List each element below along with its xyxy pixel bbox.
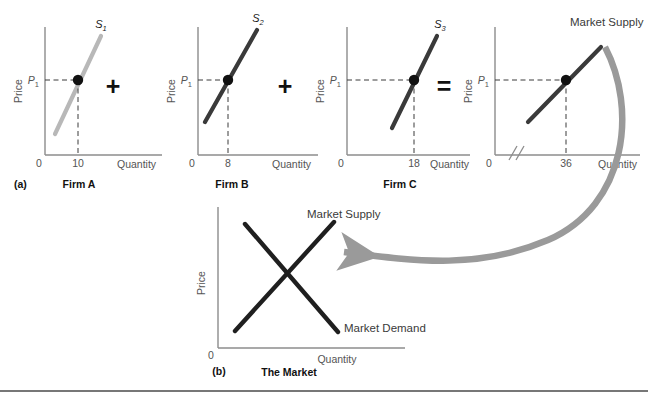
- market-supply-axis-break-icon: [509, 146, 524, 160]
- firm-c-price-tick: P1: [330, 74, 341, 89]
- firm-b-origin-label: 0: [189, 157, 195, 169]
- panel-letter-b: (b): [212, 365, 225, 377]
- firm-c-x-axis-label: Quantity: [430, 158, 470, 170]
- operator-plus-2: +: [278, 72, 293, 100]
- firm-c-caption: Firm C: [383, 178, 417, 190]
- firm-b-x-axis-label: Quantity: [272, 158, 312, 170]
- panel-the-market: Market Supply Market Demand Price Quanti…: [195, 207, 426, 378]
- firm-b-quantity-tick: 8: [225, 157, 231, 169]
- firm-b-curve-label: S2: [252, 12, 264, 27]
- firm-b-price-tick: P1: [181, 74, 192, 89]
- market-supply-y-axis-label: Price: [462, 79, 474, 103]
- market-supply-equilibrium-point: [561, 75, 571, 85]
- firm-a-caption: Firm A: [63, 178, 96, 190]
- panel-letter-a: (a): [14, 178, 27, 190]
- panel-market-supply: Market Supply Price Quantity P1 0 36: [462, 16, 644, 170]
- market-supply-origin-label: 0: [486, 157, 492, 169]
- operator-plus-1: +: [106, 72, 121, 100]
- firm-a-x-axis-label: Quantity: [117, 158, 157, 170]
- firm-b-caption: Firm B: [215, 178, 249, 190]
- firm-c-equilibrium-point: [409, 75, 419, 85]
- firm-c-y-axis-label: Price: [314, 79, 326, 103]
- firm-b-equilibrium-point: [223, 75, 233, 85]
- firm-a-origin-label: 0: [36, 157, 42, 169]
- the-market-x-axis-label: Quantity: [317, 353, 357, 365]
- panel-firm-a: S1 Price Quantity P1 0 10 (a) Firm A: [12, 18, 162, 190]
- market-supply-figure: S1 Price Quantity P1 0 10 (a) Firm A + S…: [0, 0, 648, 401]
- firm-b-y-axis-label: Price: [165, 79, 177, 103]
- the-market-supply-curve: [235, 222, 334, 331]
- firm-c-curve-label: S3: [434, 18, 446, 33]
- market-supply-quantity-tick: 36: [560, 157, 572, 169]
- market-supply-curve-label: Market Supply: [570, 16, 644, 28]
- firm-a-curve-label: S1: [95, 18, 107, 33]
- the-market-supply-label: Market Supply: [307, 208, 381, 220]
- firm-a-y-axis-label: Price: [12, 79, 24, 103]
- the-market-caption: The Market: [261, 366, 317, 378]
- firm-a-price-tick: P1: [28, 74, 39, 89]
- panel-firm-c: S3 Price Quantity P1 0 18 Firm C: [314, 18, 470, 190]
- the-market-y-axis-label: Price: [195, 271, 207, 295]
- market-supply-price-tick: P1: [478, 74, 489, 89]
- firm-c-quantity-tick: 18: [408, 157, 420, 169]
- the-market-origin-label: 0: [208, 349, 214, 361]
- the-market-demand-label: Market Demand: [344, 322, 426, 334]
- the-market-demand-curve: [245, 224, 338, 332]
- operator-equals: =: [437, 72, 452, 100]
- panel-firm-b: S2 Price Quantity P1 0 8 Firm B: [165, 12, 318, 190]
- firm-a-quantity-tick: 10: [72, 157, 84, 169]
- firm-c-origin-label: 0: [338, 157, 344, 169]
- firm-a-equilibrium-point: [73, 75, 83, 85]
